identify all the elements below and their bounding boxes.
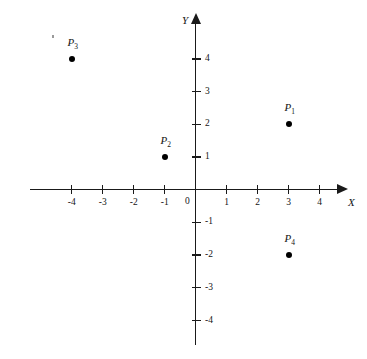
data-point-label-p1: P1 xyxy=(284,101,294,116)
data-point-p2 xyxy=(162,154,168,160)
y-tick-label: -4 xyxy=(205,316,213,326)
x-tick-label: -1 xyxy=(161,198,169,208)
y-tick-mark xyxy=(192,222,201,223)
point-label-subscript: 4 xyxy=(291,238,295,247)
x-tick-mark xyxy=(133,185,134,194)
y-axis-line xyxy=(195,22,196,345)
x-tick-mark xyxy=(226,185,227,194)
point-label-letter: P xyxy=(160,134,167,146)
y-tick-label: 2 xyxy=(205,120,210,130)
point-label-letter: P xyxy=(284,101,291,113)
x-tick-mark xyxy=(319,185,320,194)
x-tick-label: 3 xyxy=(286,198,291,208)
point-label-subscript: 3 xyxy=(74,42,78,51)
coordinate-plane-figure: Y X 0 -4-3-2-11234 4321-1-2-3-4 P1P2P3P4 xyxy=(0,0,367,359)
y-tick-label: -2 xyxy=(205,250,213,260)
x-tick-label: 1 xyxy=(224,198,229,208)
x-tick-mark xyxy=(288,185,289,194)
y-tick-label: -3 xyxy=(205,283,213,293)
y-tick-mark xyxy=(192,287,201,288)
point-label-subscript: 2 xyxy=(167,140,171,149)
data-point-p4 xyxy=(286,252,292,258)
y-axis-label: Y xyxy=(182,14,188,26)
origin-label: 0 xyxy=(185,196,190,206)
x-tick-label: -2 xyxy=(130,198,138,208)
point-label-subscript: 1 xyxy=(291,107,295,116)
x-tick-label: -3 xyxy=(99,198,107,208)
point-label-letter: P xyxy=(67,36,74,48)
data-point-p3 xyxy=(69,56,75,62)
x-tick-label: -4 xyxy=(68,198,76,208)
data-point-p1 xyxy=(286,121,292,127)
x-tick-label: 2 xyxy=(255,198,260,208)
data-point-label-p3: P3 xyxy=(67,36,77,51)
y-tick-mark xyxy=(192,58,201,59)
x-tick-label: 4 xyxy=(317,198,322,208)
scan-speck-artifact xyxy=(52,35,54,38)
x-axis-arrow-icon xyxy=(337,184,348,194)
x-tick-mark xyxy=(257,185,258,194)
y-tick-mark xyxy=(192,254,201,255)
x-tick-mark xyxy=(164,185,165,194)
data-point-label-p2: P2 xyxy=(160,134,170,149)
y-tick-label: -1 xyxy=(205,218,213,228)
y-tick-mark xyxy=(192,124,201,125)
x-tick-mark xyxy=(102,185,103,194)
x-axis-label: X xyxy=(348,196,355,208)
y-tick-mark xyxy=(192,91,201,92)
y-tick-label: 3 xyxy=(205,87,210,97)
y-tick-mark xyxy=(192,156,201,157)
x-axis-line xyxy=(30,189,340,190)
y-tick-mark xyxy=(192,320,201,321)
y-axis-arrow-icon xyxy=(191,13,201,24)
y-tick-label: 4 xyxy=(205,54,210,64)
data-point-label-p4: P4 xyxy=(284,232,294,247)
x-tick-mark xyxy=(71,185,72,194)
y-tick-label: 1 xyxy=(205,152,210,162)
point-label-letter: P xyxy=(284,232,291,244)
